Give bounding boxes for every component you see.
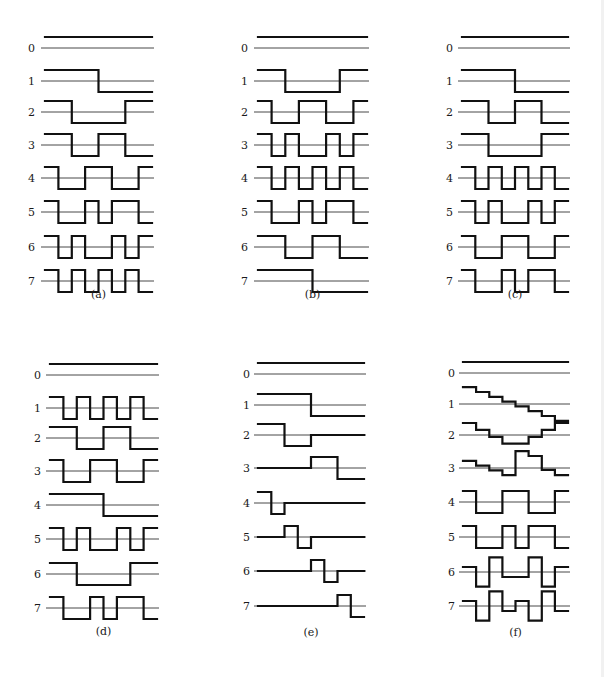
row-label: 7 <box>243 600 250 613</box>
waveform-row: 2 <box>34 427 159 449</box>
waveform-row: 4 <box>241 167 369 189</box>
row-label: 6 <box>241 241 248 254</box>
waveform-row: 4 <box>243 492 366 514</box>
waveform-row: 5 <box>34 528 159 550</box>
row-label: 7 <box>448 600 455 613</box>
waveform-row: 1 <box>448 387 570 421</box>
row-label: 5 <box>243 531 250 544</box>
row-label: 1 <box>28 75 35 88</box>
panel-caption: (a) <box>91 288 106 301</box>
row-label: 3 <box>448 462 455 475</box>
waveform-row: 4 <box>448 491 570 513</box>
panel-caption: (c) <box>508 288 523 301</box>
row-label: 2 <box>243 429 250 442</box>
row-label: 6 <box>34 568 41 581</box>
waveform-row: 5 <box>28 201 154 223</box>
waveform-row: 2 <box>446 101 570 123</box>
waveform-figure: 01234567(a)01234567(b)01234567(c)0123456… <box>0 0 604 677</box>
waveform-row: 3 <box>34 460 159 482</box>
row-label: 2 <box>34 432 41 445</box>
waveform-row: 4 <box>28 167 154 189</box>
waveform-row: 6 <box>241 236 369 258</box>
row-label: 2 <box>446 106 453 119</box>
waveform-row: 3 <box>28 134 154 156</box>
panel-c: 01234567(c) <box>446 37 570 301</box>
panel-a: 01234567(a) <box>28 37 154 301</box>
waveform-row: 4 <box>446 167 570 189</box>
row-label: 5 <box>28 206 35 219</box>
panel-b: 01234567(b) <box>241 37 369 301</box>
waveform-row: 2 <box>241 101 369 123</box>
waveform-row: 3 <box>448 451 570 475</box>
row-label: 3 <box>28 139 35 152</box>
waveform-e-5 <box>258 526 364 548</box>
row-label: 0 <box>243 368 250 381</box>
row-label: 0 <box>241 42 248 55</box>
row-label: 6 <box>243 565 250 578</box>
waveform-row: 1 <box>243 394 366 416</box>
waveform-row: 2 <box>448 423 570 444</box>
row-label: 0 <box>448 367 455 380</box>
panel-d: 01234567(d) <box>34 364 159 638</box>
panel-e: 01234567(e) <box>243 363 366 639</box>
waveform-row: 7 <box>243 595 366 617</box>
row-label: 7 <box>34 602 41 615</box>
waveform-e-6 <box>258 560 364 582</box>
row-label: 0 <box>34 369 41 382</box>
row-label: 1 <box>243 399 250 412</box>
row-label: 5 <box>34 533 41 546</box>
waveform-row: 6 <box>243 560 366 582</box>
waveform-diagram: 01234567(a)01234567(b)01234567(c)0123456… <box>0 0 604 677</box>
row-label: 0 <box>446 42 453 55</box>
row-label: 1 <box>446 75 453 88</box>
waveform-row: 1 <box>446 70 570 92</box>
panel-caption: (f) <box>509 626 522 639</box>
waveform-row: 1 <box>34 397 159 419</box>
row-label: 6 <box>28 241 35 254</box>
waveform-row: 5 <box>243 526 366 548</box>
row-label: 3 <box>34 465 41 478</box>
row-label: 2 <box>241 106 248 119</box>
row-label: 7 <box>28 275 35 288</box>
waveform-row: 5 <box>241 201 369 223</box>
row-label: 2 <box>28 106 35 119</box>
waveform-row: 6 <box>448 557 570 586</box>
row-label: 6 <box>448 566 455 579</box>
waveform-row: 6 <box>446 236 570 258</box>
row-label: 7 <box>446 275 453 288</box>
waveform-row: 7 <box>34 597 159 619</box>
row-label: 4 <box>448 496 455 509</box>
waveform-row: 0 <box>448 362 570 380</box>
row-label: 1 <box>448 398 455 411</box>
waveform-row: 0 <box>243 363 366 381</box>
waveform-row: 6 <box>34 563 159 585</box>
row-label: 4 <box>241 172 248 185</box>
waveform-row: 1 <box>241 70 369 92</box>
panel-caption: (d) <box>96 625 112 638</box>
waveform-row: 3 <box>241 134 369 156</box>
waveform-row: 4 <box>34 494 159 516</box>
waveform-row: 6 <box>28 236 154 258</box>
row-label: 5 <box>241 206 248 219</box>
row-label: 2 <box>448 429 455 442</box>
waveform-row: 0 <box>34 364 159 382</box>
waveform-row: 0 <box>446 37 570 55</box>
waveform-row: 3 <box>446 134 570 156</box>
panel-f: 01234567(f) <box>448 362 570 639</box>
row-label: 7 <box>241 275 248 288</box>
waveform-row: 5 <box>446 201 570 223</box>
row-label: 1 <box>241 75 248 88</box>
row-label: 3 <box>243 462 250 475</box>
waveform-f-3 <box>463 451 568 475</box>
row-label: 4 <box>34 499 41 512</box>
panel-caption: (e) <box>303 626 318 639</box>
row-label: 3 <box>241 139 248 152</box>
waveform-row: 2 <box>243 424 366 446</box>
row-label: 4 <box>446 172 453 185</box>
waveform-row: 0 <box>28 37 154 55</box>
row-label: 6 <box>446 241 453 254</box>
row-label: 4 <box>243 497 250 510</box>
waveform-row: 5 <box>448 526 570 548</box>
waveform-row: 1 <box>28 70 154 92</box>
waveform-row: 7 <box>448 591 570 620</box>
